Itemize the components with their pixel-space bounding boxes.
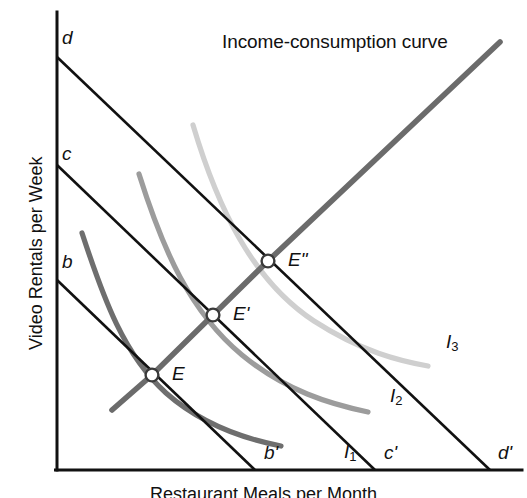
income-consumption-curve-line [112, 42, 500, 410]
axis-intercept-label-c: c [62, 144, 72, 163]
indifference-curve-label-i1: I1 [344, 442, 357, 463]
indifference-curve-label-i3: I3 [446, 332, 459, 353]
indifference-curve-label-i2: I2 [390, 386, 403, 407]
axis-intercept-label-b-prime: b' [264, 443, 278, 462]
axis-intercept-label-b: b [62, 252, 73, 271]
y-axis-label: Video Rentals per Week [26, 157, 47, 350]
equilibrium-label-e-double-prime: E" [288, 250, 307, 269]
axis-intercept-label-d: d [62, 28, 73, 47]
i1-subscript: 1 [349, 449, 356, 464]
income-consumption-diagram [0, 0, 527, 498]
equilibrium-point-e-double-prime [262, 255, 275, 268]
equilibrium-label-e-prime: E' [233, 304, 249, 323]
axis-intercept-label-d-prime: d' [498, 443, 512, 462]
axis-intercept-label-c-prime: c' [384, 443, 397, 462]
chart-title: Income-consumption curve [222, 32, 448, 51]
equilibrium-label-e: E [172, 364, 185, 383]
i3-subscript: 3 [451, 339, 458, 354]
equilibrium-point-e-prime [207, 309, 220, 322]
indifference-curve-i1 [82, 233, 281, 446]
equilibrium-point-e [146, 369, 159, 382]
figure-canvas: Income-consumption curve Video Rentals p… [0, 0, 527, 498]
x-axis-label: Restaurant Meals per Month [150, 484, 377, 498]
i2-subscript: 2 [395, 393, 402, 408]
